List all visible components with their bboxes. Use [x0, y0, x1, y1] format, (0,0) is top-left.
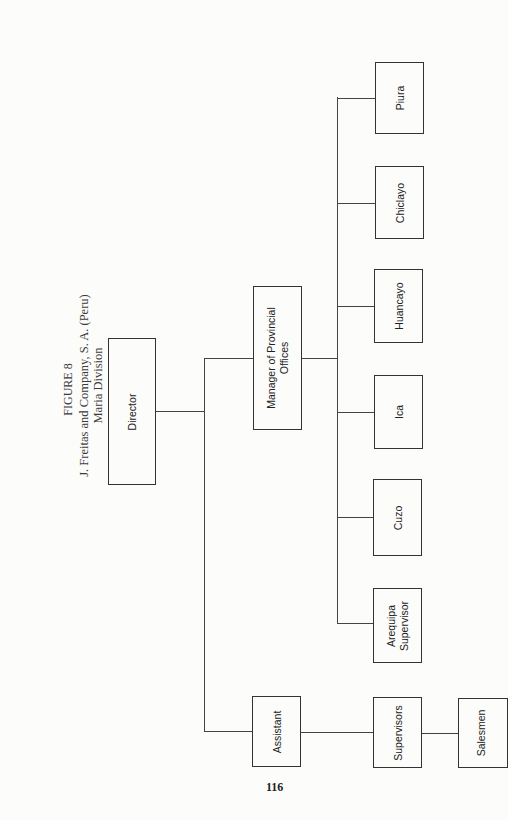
connector-chiclayo: [337, 203, 375, 204]
node-label-line2: Offices: [278, 342, 290, 374]
node-chiclayo: Chiclayo: [375, 166, 424, 239]
connector-cuzo: [337, 517, 373, 518]
node-label-line1: Manager of Provincial: [265, 307, 277, 409]
node-label: Supervisors: [391, 705, 404, 760]
node-label-line1: Arequipa: [385, 604, 397, 646]
figure-label: FIGURE 8: [61, 350, 76, 430]
node-assistant: Assistant: [252, 696, 301, 767]
node-label: Director: [126, 393, 139, 430]
figure-subtitle: Maria Division: [91, 336, 106, 436]
node-piura: Piura: [375, 62, 424, 134]
connector-supervisors-salesmen: [421, 733, 458, 734]
node-label: Ica: [392, 405, 405, 419]
connector-director-trunk: [204, 358, 205, 731]
connector-offices-trunk: [337, 97, 338, 624]
node-salesmen: Salesmen: [458, 698, 508, 768]
node-label: Chiclayo: [393, 182, 406, 222]
node-ica: Ica: [374, 375, 423, 449]
connector-manager-out: [301, 358, 337, 359]
node-arequipa-supervisor: Arequipa Supervisor: [373, 588, 422, 663]
connector-piura: [337, 98, 375, 99]
connector-arequipa: [337, 623, 373, 624]
page-number: 116: [266, 780, 283, 795]
node-huancayo: Huancayo: [374, 269, 423, 343]
connector-huancayo: [337, 306, 374, 307]
node-label: Salesmen: [475, 710, 488, 757]
node-label: Huancayo: [392, 282, 405, 329]
connector-ica: [337, 412, 374, 413]
connector-director: [155, 411, 205, 412]
node-label: Cuzo: [391, 505, 404, 530]
node-manager-provincial-offices: Manager of Provincial Offices: [253, 286, 302, 430]
node-label: Arequipa Supervisor: [385, 600, 411, 650]
node-cuzo: Cuzo: [373, 479, 422, 556]
node-label: Assistant: [270, 710, 283, 753]
node-supervisors: Supervisors: [373, 697, 422, 768]
connector-to-assistant: [204, 731, 252, 732]
node-director: Director: [108, 338, 156, 485]
connector-to-manager: [204, 358, 253, 359]
node-label: Manager of Provincial Offices: [265, 307, 291, 409]
node-label: Piura: [393, 86, 406, 111]
node-label-line2: Supervisor: [398, 600, 410, 650]
figure-title: J. Freitas and Company, S. A. (Peru): [77, 286, 92, 486]
connector-assistant-supervisors: [300, 732, 373, 733]
